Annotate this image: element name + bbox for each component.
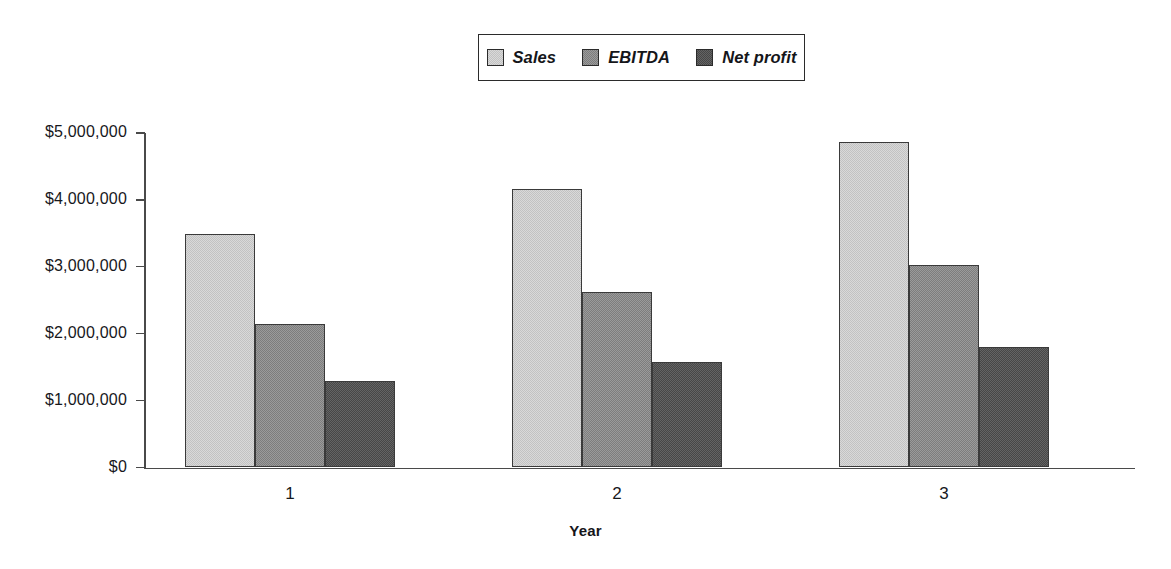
y-tick-3000000 bbox=[136, 266, 145, 267]
y-axis-label-0: $0 bbox=[109, 458, 127, 476]
bar-ebitda-year-1 bbox=[255, 324, 325, 467]
bar-net-profit-year-3 bbox=[979, 347, 1049, 467]
bar-sales-year-1 bbox=[185, 234, 255, 467]
y-tick-5000000 bbox=[136, 132, 145, 133]
plot-area: $5,000,000 $4,000,000 $3,000,000 $2,000,… bbox=[0, 0, 1171, 569]
bar-ebitda-year-3 bbox=[909, 265, 979, 467]
y-axis-label-5000000: $5,000,000 bbox=[45, 123, 127, 141]
x-axis-title: Year bbox=[0, 522, 1171, 539]
y-axis-line bbox=[144, 133, 146, 469]
x-axis-label-1: 1 bbox=[230, 484, 350, 504]
x-axis-label-2: 2 bbox=[557, 484, 677, 504]
bar-ebitda-year-2 bbox=[582, 292, 652, 468]
bar-net-profit-year-1 bbox=[325, 381, 395, 467]
y-tick-1000000 bbox=[136, 400, 145, 401]
y-tick-2000000 bbox=[136, 333, 145, 334]
bar-net-profit-year-2 bbox=[652, 362, 722, 467]
y-axis-label-1000000: $1,000,000 bbox=[45, 391, 127, 409]
y-tick-0 bbox=[136, 467, 145, 468]
y-axis-label-4000000: $4,000,000 bbox=[45, 190, 127, 208]
y-axis-label-2000000: $2,000,000 bbox=[45, 324, 127, 342]
y-axis-label-3000000: $3,000,000 bbox=[45, 257, 127, 275]
y-tick-4000000 bbox=[136, 199, 145, 200]
x-axis-line bbox=[144, 468, 1135, 470]
bar-chart: Sales EBITDA Net profit $5,000,000 $4,00… bbox=[0, 0, 1171, 569]
bar-sales-year-2 bbox=[512, 189, 582, 467]
bar-sales-year-3 bbox=[839, 142, 909, 468]
x-axis-label-3: 3 bbox=[884, 484, 1004, 504]
